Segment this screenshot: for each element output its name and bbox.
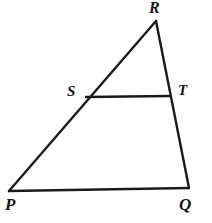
geometry-figure: R S T P Q xyxy=(0,0,212,223)
segment-st xyxy=(86,96,170,97)
vertex-label-t: T xyxy=(178,83,187,98)
triangle-diagram-canvas xyxy=(0,0,212,223)
vertex-label-q: Q xyxy=(179,196,191,213)
vertex-label-s: S xyxy=(67,84,75,99)
vertex-label-r: R xyxy=(149,0,160,16)
vertex-label-p: P xyxy=(5,196,15,213)
